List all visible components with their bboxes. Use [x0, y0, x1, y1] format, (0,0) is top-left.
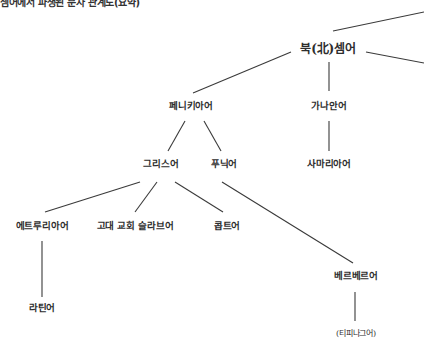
node-north-semitic: 북(北)셈어 — [300, 39, 355, 56]
node-punic: 푸닉어 — [211, 156, 237, 170]
node-latin: 라틴어 — [29, 300, 55, 314]
node-greek: 그리스어 — [143, 156, 178, 170]
edge-phoenician-punic — [204, 121, 221, 151]
node-coptic: 콥트어 — [214, 218, 240, 232]
node-samaritan: 사마리아어 — [307, 156, 351, 170]
node-berber: 베르베르어 — [334, 268, 378, 282]
edge-greek-coptic — [175, 182, 223, 212]
edge-greek-etruscan — [45, 182, 140, 212]
edge-north-semitic-right — [366, 52, 424, 63]
node-etruscan: 에트루리아어 — [16, 218, 69, 232]
edge-phoenician-greek — [168, 121, 185, 151]
edge-north-semitic-upper-right — [333, 12, 424, 31]
node-old-church-slavonic: 고대 교회 슬라브어 — [97, 218, 174, 232]
edge-punic-berber — [222, 182, 353, 263]
edge-north-semitic-phoenician — [193, 52, 291, 93]
node-phoenician: 페니키아어 — [169, 98, 213, 112]
node-tifinagh: (티피나그어) — [336, 327, 376, 338]
edge-greek-slavonic — [135, 182, 157, 212]
node-canaanite: 가나안어 — [311, 98, 346, 112]
tree-edges — [0, 0, 424, 352]
